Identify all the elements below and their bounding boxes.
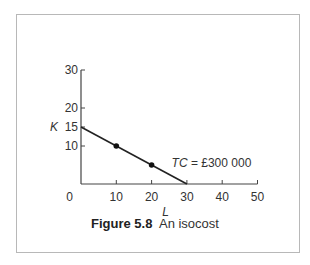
x-tick-label: 20 [145,190,159,204]
y-tick-label: 30 [65,63,79,77]
data-point [149,162,155,168]
origin-label: 0 [66,190,73,204]
y-tick-label: 20 [65,101,79,115]
figure-number: Figure 5.8 [91,216,152,231]
y-tick-label: 10 [65,139,79,153]
data-point [114,143,120,149]
figure-title: An isocost [159,216,219,231]
x-tick-label: 40 [216,190,230,204]
tc-annotation: TC = £300 000 [172,156,252,170]
y-axis-label: K [50,120,59,134]
x-tick-label: 10 [110,190,124,204]
x-tick-label: 50 [251,190,265,204]
y-tick-label: 15 [65,120,79,134]
x-tick-label: 30 [180,190,194,204]
figure-caption: Figure 5.8 An isocost [0,216,310,231]
